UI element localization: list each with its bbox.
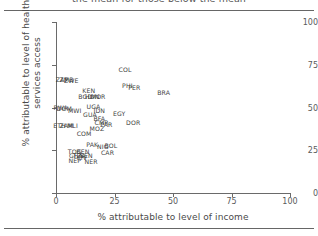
scatter-point-label: DOR [126,119,140,126]
scatter-point-label: MOZ [90,125,105,132]
x-tick-label: 75 [212,197,252,206]
x-tick-label: 25 [95,197,135,206]
x-tick-label: 0 [36,197,76,206]
scatter-point-label: MWI [68,107,82,114]
bottom-divider-rule [4,228,314,229]
y-axis-title: % attributable to level of health servic… [21,0,43,163]
scatter-point-label: BRA [157,89,170,96]
truncated-heading-clip: the mean for those below the mean [0,0,318,8]
top-divider-rule [4,10,314,11]
truncated-heading: the mean for those below the mean [0,0,318,4]
scatter-plot-area: ZAFZMBZWECOLPHIPERBRAKENBGDHONMORRWADOMM… [56,22,290,193]
scatter-point-label: NER [85,157,98,164]
x-tick-label: 50 [153,197,193,206]
scatter-point-label: COL [119,66,132,73]
scatter-point-label: CAR [101,148,114,155]
scatter-point-label: ZWE [64,77,79,84]
figure-container: the mean for those below the mean 025507… [0,0,318,236]
x-axis-title: % attributable to level of income [56,212,290,222]
scatter-point-label: COM [77,130,92,137]
scatter-point-label: PER [128,83,140,90]
scatter-point-label: NEP [68,156,81,163]
scatter-point-label: MOR [91,92,106,99]
scatter-point-label: MLI [67,122,78,129]
scatter-point-label: EGY [113,110,125,117]
x-tick-label: 100 [270,197,310,206]
